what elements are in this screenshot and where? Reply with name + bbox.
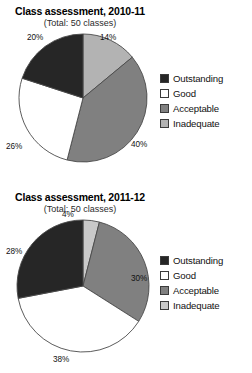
pie-2010-11 [18,33,148,163]
plot-area-2010-11: 14% 40% 26% 20% Outstanding Good Accepta… [0,29,252,187]
slice-value-2010-11-inadequate: 14% [100,33,116,42]
legend-item-inadequate: Inadequate [160,298,223,313]
legend-item-good: Good [160,86,223,101]
chart-title-2011-12: Class assessment, 2011-12 [0,186,252,203]
legend-swatch-inadequate-icon [160,119,169,128]
legend-label-acceptable: Acceptable [173,285,219,296]
plot-area-2011-12: 4% 30% 38% 28% Outstanding Good Acceptab… [0,215,252,373]
slice-value-2011-12-inadequate: 4% [62,210,74,219]
slice-value-2011-12-outstanding: 28% [6,247,22,256]
legend-swatch-outstanding-icon [160,74,169,83]
legend-label-acceptable: Acceptable [173,103,219,114]
legend-item-acceptable: Acceptable [160,283,223,298]
legend-swatch-outstanding-icon [160,256,169,265]
pie-slice-outstanding [17,220,83,298]
chart-title-2010-11: Class assessment, 2010-11 [0,0,252,17]
legend-swatch-good-icon [160,271,169,280]
legend-label-inadequate: Inadequate [173,118,220,129]
legend-label-outstanding: Outstanding [173,255,223,266]
slice-value-2011-12-good: 38% [53,355,69,364]
legend-label-good: Good [173,270,196,281]
legend-2010-11: Outstanding Good Acceptable Inadequate [160,71,223,131]
legend-2011-12: Outstanding Good Acceptable Inadequate [160,253,223,313]
legend-item-outstanding: Outstanding [160,71,223,86]
legend-item-inadequate: Inadequate [160,116,223,131]
legend-item-good: Good [160,268,223,283]
pie-chart-figure-2010-11: Class assessment, 2010-11 (Total: 50 cla… [0,0,252,186]
slice-value-2011-12-acceptable: 30% [131,274,147,283]
slice-value-2010-11-good: 26% [6,142,22,151]
chart-subtitle-2010-11: (Total: 50 classes) [0,17,252,29]
legend-item-acceptable: Acceptable [160,101,223,116]
legend-label-outstanding: Outstanding [173,73,223,84]
pie-chart-figure-2011-12: Class assessment, 2011-12 (Total: 50 cla… [0,186,252,373]
pie-2011-12 [16,219,150,353]
slice-value-2010-11-outstanding: 20% [27,33,43,42]
legend-item-outstanding: Outstanding [160,253,223,268]
legend-swatch-good-icon [160,89,169,98]
legend-label-inadequate: Inadequate [173,300,220,311]
slice-value-2010-11-acceptable: 40% [131,140,147,149]
legend-swatch-acceptable-icon [160,104,169,113]
legend-label-good: Good [173,88,196,99]
legend-swatch-inadequate-icon [160,301,169,310]
legend-swatch-acceptable-icon [160,286,169,295]
chart-subtitle-2011-12: (Total: 50 classes) [0,203,252,215]
